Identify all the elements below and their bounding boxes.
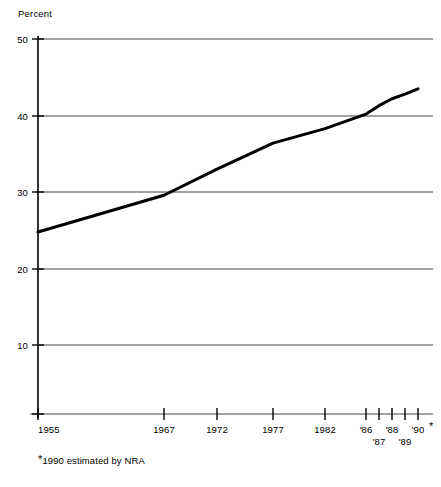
plot-area xyxy=(0,0,441,487)
chart-figure: Percent 50 40 30 20 10 1955 1967 1972 19… xyxy=(0,0,441,487)
data-series-line xyxy=(38,89,418,232)
gridlines xyxy=(38,39,433,345)
